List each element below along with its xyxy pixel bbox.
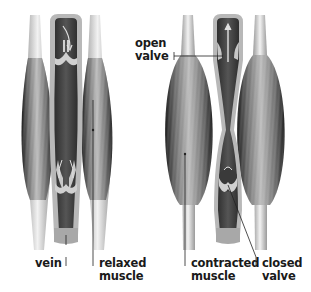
relaxed-panel [22, 14, 113, 250]
vein-label: vein [35, 257, 62, 270]
relaxed-muscle-right [82, 15, 113, 250]
relaxed-muscle-label: relaxed muscle [99, 257, 146, 283]
open-valve-label: open valve [135, 37, 169, 63]
contracted-muscle-left [165, 15, 213, 250]
relaxed-muscle-left [22, 15, 53, 250]
contracted-muscle-label: contracted muscle [191, 257, 259, 283]
relaxed-vein [49, 14, 82, 245]
contracted-muscle-right [237, 15, 285, 250]
closed-valve-label: closed valve [262, 257, 302, 283]
contracted-panel [165, 14, 285, 250]
